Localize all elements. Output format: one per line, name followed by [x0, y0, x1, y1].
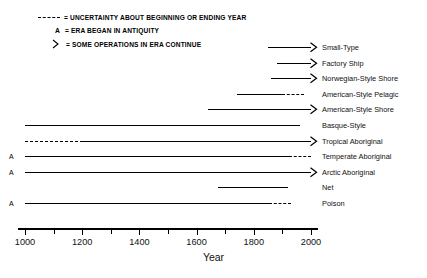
row-label: Basque-Style — [322, 119, 366, 132]
bar-solid-segment — [271, 78, 311, 79]
axis-minor-tick — [111, 230, 112, 234]
axis-tick — [139, 230, 140, 235]
antiquity-marker: A — [9, 198, 14, 209]
bar-solid-segment — [268, 47, 311, 48]
row-label: Poison — [322, 197, 345, 210]
bar-uncertain-end — [269, 203, 291, 204]
bar-solid-segment — [208, 109, 311, 110]
bar-solid-segment — [25, 203, 269, 204]
bar-solid-segment — [237, 94, 282, 95]
bar-solid-segment — [25, 172, 311, 173]
row-label: American-Style Pelagic — [322, 88, 398, 101]
whaling-eras-timeline-chart: = UNCERTAINTY ABOUT BEGINNING OR ENDING … — [0, 0, 427, 278]
axis-minor-tick — [168, 230, 169, 234]
timeline-row: Basque-Style — [0, 119, 427, 132]
axis-minor-tick — [282, 230, 283, 234]
axis-tick-label: 1800 — [229, 237, 279, 247]
legend-label-antiquity: = ERA BEGAN IN ANTIQUITY — [65, 27, 159, 34]
x-axis-title: Year — [0, 251, 427, 263]
row-label: Small-Type — [322, 41, 359, 54]
timeline-row: Tropical Aboriginal — [0, 135, 427, 148]
bar-solid-segment — [83, 141, 311, 142]
timeline-row: American-Style Shore — [0, 103, 427, 116]
bar-uncertain-end — [289, 156, 311, 157]
antiquity-marker: A — [9, 151, 14, 162]
axis-tick-label: 2000 — [286, 237, 336, 247]
row-label: Arctic Aboriginal — [322, 166, 375, 179]
axis-tick-label: 1000 — [0, 237, 50, 247]
axis-tick — [311, 230, 312, 235]
row-label: Net — [322, 181, 334, 194]
bar-uncertain-end — [282, 94, 304, 95]
axis-minor-tick — [225, 230, 226, 234]
antiquity-letter-icon: A — [38, 27, 61, 34]
timeline-row: American-Style Pelagic — [0, 88, 427, 101]
axis-minor-tick — [54, 230, 55, 234]
dashed-line-icon — [38, 17, 60, 18]
timeline-row: Net — [0, 181, 427, 194]
timeline-row: ATemperate Aboriginal — [0, 150, 427, 163]
legend-label-uncertainty: = UNCERTAINTY ABOUT BEGINNING OR ENDING … — [64, 14, 246, 21]
axis-tick — [197, 230, 198, 235]
timeline-row: Factory Ship — [0, 57, 427, 70]
timeline-row: AArctic Aboriginal — [0, 166, 427, 179]
axis-tick-label: 1400 — [114, 237, 164, 247]
axis-tick-label: 1600 — [172, 237, 222, 247]
bar-solid-segment — [277, 63, 311, 64]
axis-tick — [25, 230, 26, 235]
timeline-row: APoison — [0, 197, 427, 210]
bar-uncertain-start — [25, 141, 83, 142]
timeline-row: Norwegian-Style Shore — [0, 72, 427, 85]
axis-tick — [254, 230, 255, 235]
row-label: Temperate Aboriginal — [322, 150, 391, 163]
timeline-row: Small-Type — [0, 41, 427, 54]
legend-item-uncertainty: = UNCERTAINTY ABOUT BEGINNING OR ENDING … — [38, 14, 246, 21]
axis-tick-label: 1200 — [57, 237, 107, 247]
bar-solid-segment — [25, 125, 300, 126]
bar-solid-segment — [218, 187, 288, 188]
legend-item-antiquity: A = ERA BEGAN IN ANTIQUITY — [38, 27, 159, 34]
antiquity-marker: A — [9, 167, 14, 178]
row-label: Factory Ship — [322, 57, 364, 70]
row-label: Norwegian-Style Shore — [322, 72, 398, 85]
bar-solid-segment — [25, 156, 289, 157]
row-label: Tropical Aboriginal — [322, 135, 383, 148]
axis-tick — [82, 230, 83, 235]
row-label: American-Style Shore — [322, 103, 394, 116]
